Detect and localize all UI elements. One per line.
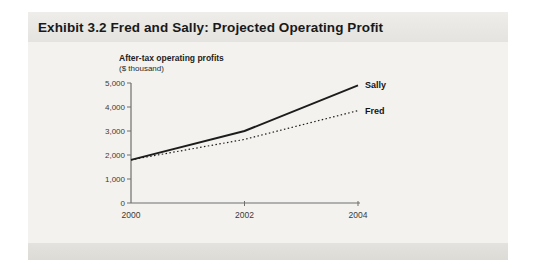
exhibit-header: Exhibit 3.2 Fred and Sally: Projected Op… xyxy=(28,12,508,42)
chart-y-axis-title-line2: ($ thousand) xyxy=(119,64,224,73)
exhibit-title: Exhibit 3.2 Fred and Sally: Projected Op… xyxy=(28,20,383,35)
chart-y-axis-title: After-tax operating profits ($ thousand) xyxy=(119,54,224,73)
chart-y-axis-title-line1: After-tax operating profits xyxy=(119,54,224,64)
exhibit-box: Exhibit 3.2 Fred and Sally: Projected Op… xyxy=(28,12,508,260)
page-background: Exhibit 3.2 Fred and Sally: Projected Op… xyxy=(0,0,535,279)
exhibit-footer-band xyxy=(28,243,508,260)
